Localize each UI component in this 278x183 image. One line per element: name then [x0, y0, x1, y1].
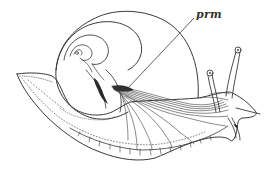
- snail-illustration: [0, 0, 278, 183]
- retractor-muscle: [94, 78, 228, 150]
- snail-diagram: prm: [0, 0, 278, 183]
- label-leader-line: [128, 18, 194, 88]
- prm-label: prm: [196, 8, 222, 21]
- snail-head: [200, 47, 260, 140]
